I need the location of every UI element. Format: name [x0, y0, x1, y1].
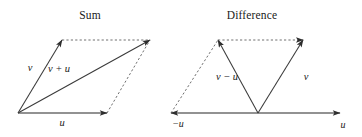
- label-vector-u-sum: u: [59, 117, 64, 128]
- label-vector-minus-u: −u: [172, 118, 184, 129]
- dashed-right-edge-sum: [107, 40, 150, 113]
- dashed-left-diagonal-difference: [171, 40, 218, 113]
- label-vector-v-difference: v: [304, 71, 309, 82]
- label-vector-v-sum: v: [28, 62, 33, 73]
- label-vector-v-minus-u: v − u: [216, 71, 238, 82]
- sum-panel-graphics: [18, 40, 150, 113]
- vector-sum-difference-figure: Sum v v + u u Difference v − u v −u u: [0, 0, 362, 137]
- panel-title-difference: Difference: [227, 9, 277, 21]
- vector-v-sum: [18, 40, 62, 113]
- difference-panel-graphics: [171, 40, 340, 113]
- vector-v-plus-u: [18, 40, 150, 113]
- vector-v-difference: [258, 40, 303, 113]
- label-vector-u-difference: u: [341, 119, 346, 130]
- label-vector-v-plus-u: v + u: [48, 63, 70, 74]
- panel-title-sum: Sum: [79, 9, 101, 21]
